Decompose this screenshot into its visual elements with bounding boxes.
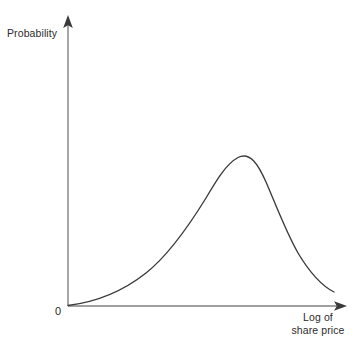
x-axis-label-line1: Log of [303, 311, 333, 323]
x-axis-label: Log ofshare price [276, 311, 360, 336]
origin-tick-label: 0 [55, 305, 61, 318]
probability-density-curve [68, 156, 334, 306]
chart-canvas [0, 0, 364, 352]
probability-distribution-figure: Probability Log ofshare price 0 [0, 0, 364, 352]
x-axis-label-line2: share price [291, 324, 344, 336]
y-axis-label: Probability [7, 27, 57, 40]
